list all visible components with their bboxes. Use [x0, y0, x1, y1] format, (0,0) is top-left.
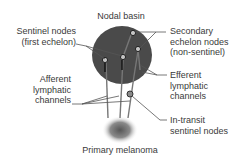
sentinel-nodes-label: Sentinel nodes (first echelon): [0, 26, 76, 47]
primary-melanoma: [102, 116, 138, 144]
afferent-label: Afferent lymphatic channels: [0, 74, 71, 106]
in-transit-label: In-transit sentinel nodes: [170, 115, 228, 136]
efferent-label: Efferent lymphatic channels: [170, 70, 208, 102]
lymphatic-diagram: Nodal basin Sentinel nodes (first echelo…: [0, 0, 238, 158]
primary-melanoma-label: Primary melanoma: [70, 145, 170, 156]
secondary-nodes-label: Secondary echelon nodes (non-sentinel): [170, 26, 229, 58]
nodal-basin-label: Nodal basin: [96, 11, 146, 22]
